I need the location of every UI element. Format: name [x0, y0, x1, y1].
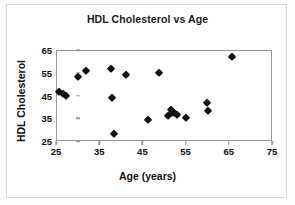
chart-figure: HDL Cholesterol vs Age 2535455565 253545… [0, 0, 295, 205]
x-tick-mark [228, 141, 230, 145]
x-tick-mark [55, 141, 57, 145]
y-axis-label: HDL Cholesterol [15, 36, 27, 166]
x-axis-label: Age (years) [0, 170, 295, 182]
x-tick-mark [271, 141, 273, 145]
x-tick-label: 55 [171, 146, 201, 157]
x-tick-label: 75 [257, 146, 287, 157]
x-tick-label: 65 [214, 146, 244, 157]
x-tick-mark [98, 141, 100, 145]
x-tick-label: 35 [84, 146, 114, 157]
x-tick-mark [142, 141, 144, 145]
x-tick-mark [185, 141, 187, 145]
x-tick-label: 45 [127, 146, 157, 157]
x-tick-label: 25 [41, 146, 71, 157]
